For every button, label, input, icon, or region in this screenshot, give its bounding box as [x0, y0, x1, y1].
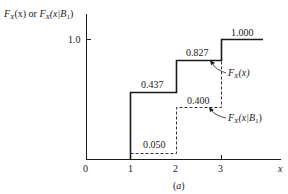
x-axis-label: x [277, 163, 283, 174]
x-tick-label-1: 1 [128, 163, 133, 174]
value-label-1000: 1.000 [231, 27, 254, 38]
cdf-chart: FX(x) or FX(x|B1) 1.0 0 1 2 3 x (a) 0.43… [0, 0, 288, 194]
y-axis-label: FX(x) or FX(x|B1) [3, 8, 73, 21]
y-tick-label-1: 1.0 [68, 34, 81, 45]
figure-caption: (a) [173, 180, 185, 192]
annotation-label-fx-b1: FX(x|B1) [227, 112, 262, 125]
annotation-arrow-fx [212, 63, 226, 73]
value-label-0400: 0.400 [187, 95, 210, 106]
x-tick-label-3: 3 [218, 163, 223, 174]
annotation-label-fx: FX(x) [227, 67, 250, 80]
x-tick-label-0: 0 [83, 163, 88, 174]
annotation-arrow-fx-b1 [211, 110, 226, 118]
value-label-0437: 0.437 [141, 79, 164, 90]
value-label-0827: 0.827 [186, 47, 209, 58]
value-label-0050: 0.050 [143, 139, 166, 150]
x-tick-label-2: 2 [173, 163, 178, 174]
